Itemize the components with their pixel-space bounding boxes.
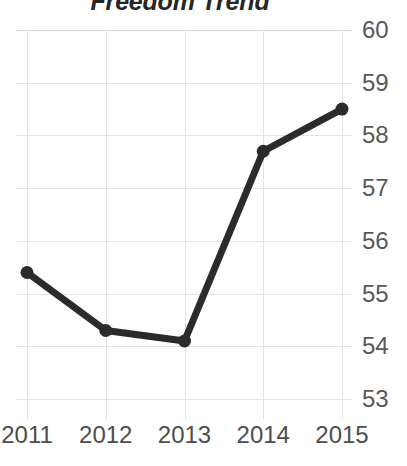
- data-point-2011: [21, 266, 34, 279]
- y-tick-label-54: 54: [362, 334, 404, 358]
- line-chart: Freedom Trend 5354555657585960 201120122…: [0, 0, 407, 466]
- data-point-2015: [336, 103, 349, 116]
- x-tick-label-2013: 2013: [140, 423, 230, 447]
- data-point-2012: [99, 324, 112, 337]
- data-point-2013: [178, 335, 191, 348]
- x-tick-label-2015: 2015: [297, 423, 387, 447]
- x-tick-label-2014: 2014: [218, 423, 308, 447]
- y-tick-label-60: 60: [362, 18, 404, 42]
- y-tick-label-57: 57: [362, 176, 404, 200]
- y-tick-label-58: 58: [362, 123, 404, 147]
- y-tick-label-59: 59: [362, 71, 404, 95]
- data-point-2014: [257, 145, 270, 158]
- series-line-freedom-trend: [27, 109, 342, 341]
- data-series-layer: [0, 0, 407, 466]
- series-markers: [21, 103, 349, 348]
- y-tick-label-55: 55: [362, 282, 404, 306]
- plot-area: [16, 30, 352, 399]
- y-tick-label-56: 56: [362, 229, 404, 253]
- x-tick-label-2012: 2012: [61, 423, 151, 447]
- y-tick-label-53: 53: [362, 387, 404, 411]
